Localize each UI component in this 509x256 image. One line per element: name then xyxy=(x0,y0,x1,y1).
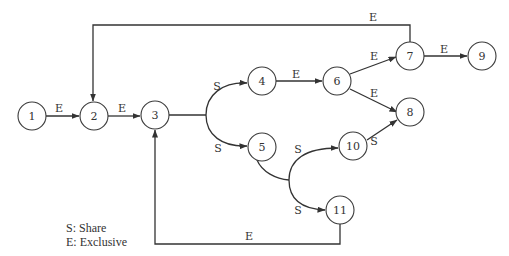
node-4: 4 xyxy=(248,67,276,95)
node-label-6: 6 xyxy=(334,75,341,88)
edge-label-4-6: E xyxy=(292,68,300,81)
node-label-3: 3 xyxy=(152,109,159,122)
edge-label-2-3: E xyxy=(118,102,126,115)
legend: S: Share E: Exclusive xyxy=(66,221,127,249)
edge-label-5-11: S xyxy=(294,204,302,217)
edge-label-6-8: E xyxy=(370,87,378,100)
node-label-1: 1 xyxy=(29,110,36,123)
edge-label-3-4: S xyxy=(213,80,221,93)
edge-5-branch xyxy=(257,160,289,180)
edge-label-1-2: E xyxy=(55,102,63,115)
node-11: 11 xyxy=(326,196,354,224)
lock-graph-diagram: E E S S E E E E E S S S E 1 2 xyxy=(0,0,509,256)
diagram-canvas: E E S S E E E E E S S S E 1 2 xyxy=(0,0,509,256)
node-1: 1 xyxy=(18,102,46,130)
node-label-8: 8 xyxy=(407,106,414,119)
edge-label-7-2: E xyxy=(369,11,377,24)
node-label-10: 10 xyxy=(346,140,360,153)
edge-label-3-5: S xyxy=(214,142,222,155)
node-9: 9 xyxy=(468,42,496,70)
node-label-4: 4 xyxy=(259,75,266,88)
node-label-2: 2 xyxy=(91,110,98,123)
node-10: 10 xyxy=(339,132,367,160)
node-label-7: 7 xyxy=(407,50,414,63)
edge-label-10-8: S xyxy=(370,135,378,148)
edge-labels: E E S S E E E E E S S S E xyxy=(55,11,448,243)
node-label-11: 11 xyxy=(333,204,347,217)
edge-label-5-10: S xyxy=(294,143,302,156)
edge-3-5 xyxy=(206,115,247,146)
node-2: 2 xyxy=(80,102,108,130)
node-6: 6 xyxy=(323,67,351,95)
node-label-5: 5 xyxy=(259,141,266,154)
node-3: 3 xyxy=(141,101,169,129)
node-label-9: 9 xyxy=(479,50,486,63)
node-5: 5 xyxy=(248,133,276,161)
edge-label-7-9: E xyxy=(440,43,448,56)
legend-exclusive: E: Exclusive xyxy=(66,235,127,249)
nodes: 1 2 3 4 5 6 7 xyxy=(18,42,496,224)
edge-label-6-7: E xyxy=(370,50,378,63)
edge-3-4 xyxy=(206,83,247,115)
legend-share: S: Share xyxy=(66,221,127,235)
node-8: 8 xyxy=(396,98,424,126)
edge-label-11-3: E xyxy=(245,230,253,243)
node-7: 7 xyxy=(396,42,424,70)
